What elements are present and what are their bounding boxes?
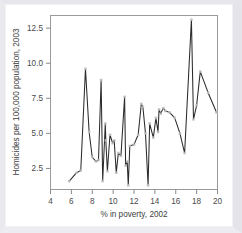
data-point-marker — [164, 110, 167, 113]
data-point-marker — [140, 103, 143, 106]
data-point-marker — [105, 139, 108, 142]
x-tick-label: 4 — [48, 197, 53, 206]
x-axis-title: % in poverty, 2002 — [100, 210, 168, 219]
data-point-marker — [148, 122, 151, 125]
x-tick-label: 12 — [129, 197, 139, 206]
data-point-marker — [124, 164, 127, 167]
data-point-marker — [79, 169, 82, 172]
chart-figure: 468101214161820 2.55.07.510.012.5 % in p… — [0, 0, 242, 233]
data-point-marker — [215, 111, 218, 114]
y-tick-label: 2.5 — [32, 164, 44, 173]
data-point-marker — [75, 171, 78, 174]
data-point-marker — [190, 18, 193, 21]
x-tick-label: 14 — [150, 197, 160, 206]
y-axis-title: Homicides per 100,000 population, 2003 — [12, 28, 21, 175]
data-point-marker — [104, 122, 107, 125]
data-point-marker — [152, 136, 155, 139]
data-point-marker — [207, 91, 210, 94]
chart-svg: 468101214161820 2.55.07.510.012.5 % in p… — [0, 0, 242, 233]
data-point-marker — [95, 160, 98, 163]
x-tick-labels: 468101214161820 — [48, 197, 222, 206]
data-point-marker — [106, 170, 109, 173]
data-point-marker — [109, 133, 112, 136]
y-tick-label: 5.0 — [32, 129, 44, 138]
x-tick-label: 16 — [171, 197, 181, 206]
data-point-marker — [142, 105, 145, 108]
data-point-marker — [97, 159, 100, 162]
data-point-marker — [179, 132, 182, 135]
data-point-marker — [137, 133, 140, 136]
data-point-marker — [144, 132, 147, 135]
data-point-marker — [127, 184, 130, 187]
data-point-marker — [192, 118, 195, 121]
data-point-marker — [126, 160, 129, 163]
data-point-marker — [183, 152, 186, 155]
data-point-marker — [88, 131, 91, 134]
data-point-marker — [100, 79, 103, 82]
screenshot-root: 468101214161820 2.55.07.510.012.5 % in p… — [0, 0, 242, 233]
data-point-marker — [68, 180, 71, 183]
data-point-marker — [173, 117, 176, 120]
y-tick-labels: 2.55.07.510.012.5 — [27, 24, 43, 173]
data-point-marker — [195, 104, 198, 107]
data-point-marker — [155, 117, 158, 120]
x-tick-label: 6 — [69, 197, 74, 206]
x-tick-label: 8 — [90, 197, 95, 206]
y-tick-marks — [46, 28, 51, 168]
data-point-marker — [84, 68, 87, 71]
data-point-marker — [162, 107, 165, 110]
data-point-marker — [199, 70, 202, 73]
data-point-marker — [111, 142, 114, 145]
data-point-marker — [129, 145, 132, 148]
data-point-marker — [101, 180, 104, 183]
y-tick-label: 7.5 — [32, 94, 44, 103]
data-point-marker — [159, 112, 162, 115]
data-point-marker — [120, 155, 123, 158]
data-point-marker — [158, 108, 161, 111]
data-point-marker — [91, 156, 94, 159]
data-point-marker — [117, 152, 120, 155]
x-tick-label: 18 — [192, 197, 202, 206]
data-point-marker — [113, 139, 116, 142]
data-point-marker — [168, 111, 171, 114]
x-tick-label: 10 — [109, 197, 119, 206]
x-tick-marks — [51, 190, 218, 195]
data-point-marker — [147, 184, 150, 187]
plot-panel — [51, 16, 218, 190]
x-tick-label: 20 — [213, 197, 223, 206]
y-tick-label: 12.5 — [27, 24, 43, 33]
data-point-marker — [157, 131, 160, 134]
data-point-marker — [123, 96, 126, 99]
y-tick-label: 10.0 — [27, 59, 43, 68]
data-point-marker — [115, 171, 118, 174]
data-point-marker — [133, 143, 136, 146]
